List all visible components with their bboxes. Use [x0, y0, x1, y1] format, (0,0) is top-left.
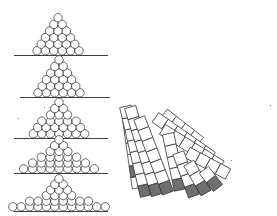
circle	[20, 165, 28, 173]
circle	[38, 117, 46, 125]
circle	[55, 136, 63, 144]
circle	[55, 56, 63, 64]
circle-stack	[9, 175, 110, 212]
speck	[270, 105, 271, 106]
circle-stack	[20, 56, 110, 98]
circle	[101, 203, 109, 211]
circle	[37, 153, 45, 161]
speck	[44, 107, 45, 108]
circle	[72, 117, 80, 125]
diagram-canvas	[0, 0, 277, 216]
circle	[34, 197, 42, 205]
square	[162, 133, 176, 147]
circle	[9, 203, 17, 211]
circle-stack	[14, 14, 108, 56]
circle	[28, 159, 36, 167]
circle	[54, 14, 62, 22]
circle	[55, 175, 63, 183]
circle	[90, 165, 98, 173]
circle	[72, 153, 80, 161]
circle	[76, 197, 84, 205]
circle	[93, 203, 101, 211]
circle-stacks	[9, 14, 110, 212]
circle-stack	[14, 98, 108, 138]
speck	[18, 118, 19, 119]
circle	[25, 197, 33, 205]
circle	[55, 98, 63, 106]
circle	[81, 159, 89, 167]
speck	[231, 160, 232, 161]
circle	[17, 203, 25, 211]
circle	[84, 197, 92, 205]
square-column-fan	[120, 105, 231, 198]
circle-stack	[14, 136, 108, 174]
